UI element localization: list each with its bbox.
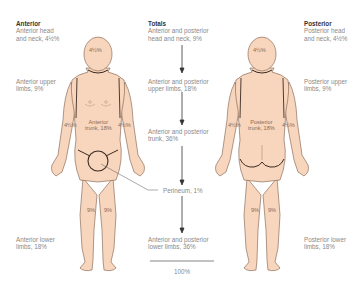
back-left-arm-percent: 4½%	[228, 122, 241, 128]
posterior-lower-limbs-label: Posterior lower limbs, 18%	[304, 236, 346, 251]
label-line: Anterior lower	[16, 236, 55, 243]
label-line: Posterior lower	[304, 236, 346, 243]
back-right-arm-percent: 4½%	[282, 122, 295, 128]
label-line: Posterior head	[304, 27, 347, 34]
perineum-label: Perineum, 1%	[163, 187, 203, 194]
label-line: and neck, 4½%	[304, 35, 347, 42]
label-line: Anterior and posterior	[148, 27, 209, 34]
back-trunk-label: Posterior trunk, 18%	[248, 119, 275, 132]
front-right-leg-percent: 9%	[104, 207, 112, 213]
anterior-header: Anterior	[16, 20, 59, 27]
totals-head-neck-label: Totals Anterior and posterior head and n…	[148, 20, 209, 42]
label-line: Anterior and posterior	[148, 78, 209, 85]
back-left-leg-percent: 9%	[251, 207, 259, 213]
label-line: limbs, 18%	[16, 243, 55, 250]
label-line: Anterior upper	[16, 78, 56, 85]
total-percentage: 100%	[174, 268, 190, 275]
label-line: limbs, 9%	[304, 85, 347, 92]
front-left-leg-percent: 9%	[87, 207, 95, 213]
label-line: trunk, 18%	[85, 125, 112, 131]
label-line: and neck, 4½%	[16, 35, 59, 42]
back-right-leg-percent: 9%	[268, 207, 276, 213]
posterior-header: Posterior	[304, 20, 347, 27]
front-trunk-label: Anterior trunk, 18%	[85, 119, 112, 132]
label-line: upper limbs, 18%	[148, 85, 209, 92]
front-body-figure	[52, 37, 159, 271]
rule-of-nines-diagram: Anterior Anterior head and neck, 4½% Ant…	[0, 0, 364, 292]
posterior-head-neck-label: Posterior Posterior head and neck, 4½%	[304, 20, 347, 42]
label-line: Anterior and posterior	[148, 128, 209, 135]
label-line: Posterior upper	[304, 78, 347, 85]
label-line: limbs, 18%	[304, 243, 346, 250]
label-line: trunk, 18%	[248, 125, 275, 131]
totals-upper-limbs-label: Anterior and posterior upper limbs, 18%	[148, 78, 209, 93]
anterior-upper-limbs-label: Anterior upper limbs, 9%	[16, 78, 56, 93]
totals-lower-limbs-label: Anterior and posterior lower limbs, 36%	[148, 236, 209, 251]
front-right-arm-percent: 4½%	[118, 122, 131, 128]
posterior-upper-limbs-label: Posterior upper limbs, 9%	[304, 78, 347, 93]
label-line: Anterior and posterior	[148, 236, 209, 243]
label-line: lower limbs, 36%	[148, 243, 209, 250]
label-line: head and neck, 9%	[148, 35, 209, 42]
label-line: limbs, 9%	[16, 85, 56, 92]
front-head-percent: 4½%	[89, 47, 102, 53]
label-line: trunk, 36%	[148, 135, 209, 142]
totals-header: Totals	[148, 20, 209, 27]
front-left-arm-percent: 4½%	[64, 122, 77, 128]
label-line: Anterior head	[16, 27, 59, 34]
anterior-head-neck-label: Anterior Anterior head and neck, 4½%	[16, 20, 59, 42]
totals-trunk-label: Anterior and posterior trunk, 36%	[148, 128, 209, 143]
anterior-lower-limbs-label: Anterior lower limbs, 18%	[16, 236, 55, 251]
back-head-percent: 4½%	[253, 47, 266, 53]
back-body-figure	[216, 37, 309, 271]
